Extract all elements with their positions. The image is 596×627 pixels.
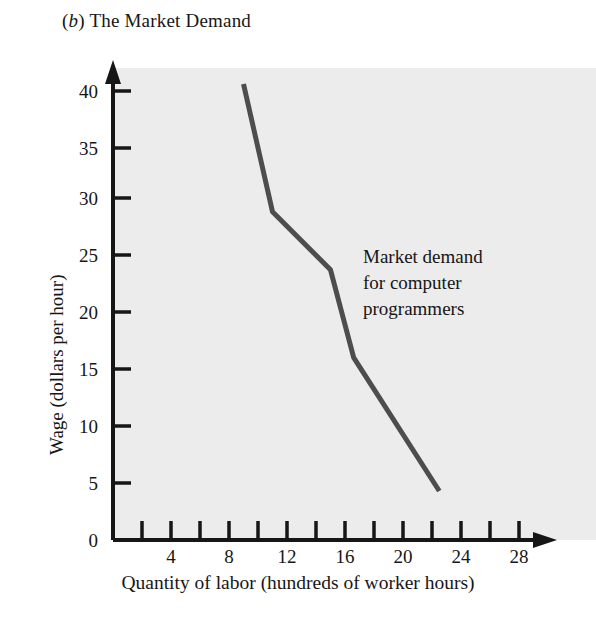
curve-annotation-line-2: for computer	[363, 270, 483, 296]
curve-annotation-line-1: Market demand	[363, 244, 483, 270]
x-tick-label: 16	[325, 547, 365, 566]
y-axis-title: Wage (dollars per hour)	[46, 275, 68, 455]
y-tick-label: 40	[58, 82, 98, 101]
y-axis	[105, 60, 121, 540]
y-axis-arrow-icon	[105, 60, 121, 84]
x-axis-title: Quantity of labor (hundreds of worker ho…	[0, 572, 596, 594]
market-demand-figure: (b) The Market Demand	[0, 0, 596, 627]
x-tick-label: 8	[209, 547, 249, 566]
curve-annotation-line-3: programmers	[363, 296, 483, 322]
x-tick-label: 20	[383, 547, 423, 566]
y-tick-label: 25	[58, 246, 98, 265]
x-axis-ticks	[142, 521, 519, 540]
y-tick-label: 30	[58, 189, 98, 208]
x-tick-label: 4	[151, 547, 191, 566]
x-tick-label: 12	[267, 547, 307, 566]
curve-annotation: Market demand for computer programmers	[363, 244, 483, 322]
y-axis-ticks	[113, 91, 131, 483]
x-tick-label: 24	[441, 547, 481, 566]
y-tick-label: 0	[58, 531, 98, 550]
y-tick-label: 5	[58, 474, 98, 493]
x-axis-arrow-icon	[533, 532, 557, 548]
y-tick-label: 35	[58, 139, 98, 158]
x-tick-label: 28	[499, 547, 539, 566]
